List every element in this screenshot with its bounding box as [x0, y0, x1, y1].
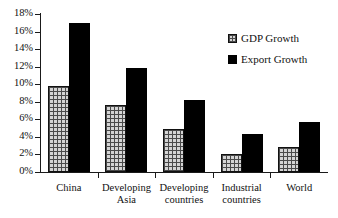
- legend-label-gdp-growth: GDP Growth: [241, 33, 299, 44]
- x-axis-tick: [270, 173, 271, 178]
- y-axis-labels: 0%2%4%6%8%10%12%14%16%18%: [0, 0, 33, 218]
- y-axis-tick-label: 2%: [1, 148, 33, 159]
- x-axis-tick: [98, 173, 99, 178]
- legend-item-gdp-growth: GDP Growth: [228, 33, 336, 44]
- bar-gdp-growth: [221, 154, 242, 172]
- x-axis-category-label: World: [264, 182, 334, 194]
- x-axis-line: [40, 172, 328, 173]
- bar-export-growth: [69, 23, 90, 172]
- bar-export-growth: [242, 134, 263, 172]
- legend-item-export-growth: Export Growth: [228, 54, 336, 65]
- chart-legend: GDP Growth Export Growth: [228, 33, 336, 75]
- y-axis-tick-label: 0%: [1, 166, 33, 177]
- x-axis-tick: [155, 173, 156, 178]
- bar-group: [163, 14, 205, 172]
- x-axis-tick: [213, 173, 214, 178]
- bar-export-growth: [299, 122, 320, 172]
- bar-export-growth: [126, 68, 147, 172]
- legend-swatch-gdp-growth: [228, 34, 237, 43]
- y-axis-tick-label: 4%: [1, 131, 33, 142]
- y-axis-tick-label: 12%: [1, 61, 33, 72]
- bar-chart: 0%2%4%6%8%10%12%14%16%18% ChinaDevelopin…: [0, 0, 338, 218]
- y-axis-tick-label: 8%: [1, 96, 33, 107]
- y-axis-tick-label: 10%: [1, 78, 33, 89]
- y-axis-tick-label: 18%: [1, 8, 33, 19]
- bar-gdp-growth: [278, 147, 299, 172]
- bar-gdp-growth: [163, 129, 184, 172]
- y-axis-tick-label: 14%: [1, 43, 33, 54]
- bar-gdp-growth: [105, 105, 126, 172]
- y-axis-tick-label: 6%: [1, 113, 33, 124]
- bar-gdp-growth: [48, 86, 69, 172]
- y-axis-tick-label: 16%: [1, 26, 33, 37]
- legend-swatch-export-growth: [228, 55, 237, 64]
- bar-group: [48, 14, 90, 172]
- legend-label-export-growth: Export Growth: [241, 54, 307, 65]
- bar-group: [105, 14, 147, 172]
- bar-export-growth: [184, 100, 205, 172]
